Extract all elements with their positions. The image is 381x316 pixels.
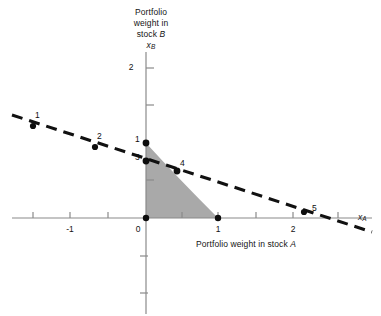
y-tick-label-2: 2 [124, 62, 138, 72]
vertex-point-origin [143, 215, 149, 221]
data-point-2 [92, 144, 98, 150]
x-tick-label-neg1: -1 [60, 224, 80, 234]
y-axis-title-line-2: weight in [108, 18, 194, 29]
x-axis-title: Portfolio weight in stock A [196, 239, 296, 250]
y-axis-title-stock-symbol: B [160, 29, 166, 39]
vertex-point-1-0 [215, 215, 221, 221]
y-axis-title-line-1: Portfolio [108, 7, 194, 18]
y-axis-title-line-3: stock B [108, 29, 194, 40]
x-tick-label-0: 0 [128, 224, 148, 234]
data-point-4 [174, 168, 181, 175]
point-label-vertex-1: 1 [135, 134, 140, 144]
y-axis-symbol-subscript: B [151, 43, 155, 50]
shaded-region-feasible-portfolios [146, 143, 218, 218]
x-axis-title-stock-symbol: A [290, 239, 296, 249]
x-axis-symbol-subscript: A [362, 215, 366, 222]
point-label-5: 5 [312, 203, 317, 213]
x-axis-symbol: xA [358, 212, 367, 224]
point-label-1: 1 [35, 110, 40, 120]
y-axis-symbol: xB [108, 40, 194, 52]
point-label-4: 4 [180, 158, 185, 168]
vertex-point-0-1 [143, 140, 150, 147]
figure-canvas: Portfolio weight in stock B xB Portfolio… [0, 0, 381, 316]
data-point-3 [143, 158, 150, 165]
y-axis-title: Portfolio weight in stock B [108, 7, 194, 40]
point-label-3: 3 [135, 152, 140, 162]
point-label-2: 2 [97, 131, 102, 141]
x-tick-label-1: 1 [208, 224, 228, 234]
y-axis-ticks [140, 68, 154, 293]
x-tick-label-2: 2 [283, 224, 303, 234]
data-point-5 [301, 209, 307, 215]
data-point-1 [30, 123, 36, 129]
